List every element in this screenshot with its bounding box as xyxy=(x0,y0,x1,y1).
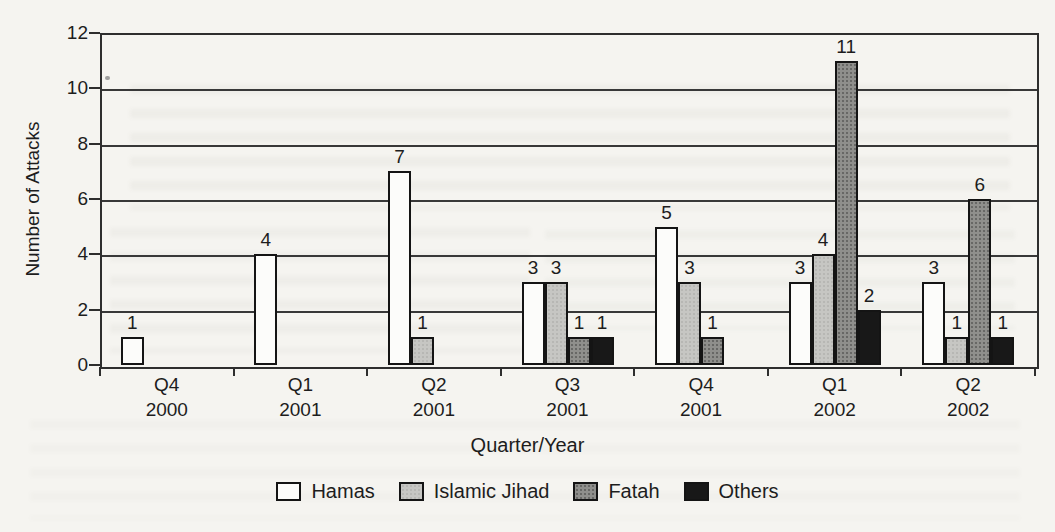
bar-hamas xyxy=(655,227,678,365)
legend: Hamas Islamic Jihad Fatah Others xyxy=(0,480,1055,503)
gridline xyxy=(102,200,1037,202)
legend-label-others: Others xyxy=(719,480,779,503)
category-quarter: Q4 xyxy=(146,372,188,397)
bar-value-label: 2 xyxy=(864,285,875,307)
bar-value-label: 3 xyxy=(928,257,939,279)
bar-islamic-jihad xyxy=(678,282,701,365)
bar-islamic-jihad xyxy=(812,254,835,365)
x-category-label: Q42001 xyxy=(680,372,722,422)
legend-item-hamas: Hamas xyxy=(276,480,374,503)
category-year: 2001 xyxy=(279,397,321,422)
gridline xyxy=(102,311,1037,313)
gridline xyxy=(102,255,1037,257)
bar-value-label: 1 xyxy=(707,312,718,334)
legend-item-fatah: Fatah xyxy=(573,480,659,503)
legend-item-islamic-jihad: Islamic Jihad xyxy=(399,480,550,503)
x-axis-title: Quarter/Year xyxy=(0,434,1055,457)
x-axis-tick xyxy=(99,367,101,376)
bar-islamic-jihad xyxy=(945,337,968,365)
bar-fatah xyxy=(835,61,858,365)
x-axis-tick xyxy=(900,367,902,376)
y-tick-label: 0 xyxy=(38,354,88,376)
bar-value-label: 5 xyxy=(661,202,672,224)
bar-islamic-jihad xyxy=(545,282,568,365)
bar-value-label: 1 xyxy=(597,312,608,334)
bar-value-label: 3 xyxy=(684,257,695,279)
y-axis-tick xyxy=(89,309,100,311)
x-axis-tick xyxy=(633,367,635,376)
y-tick-label: 2 xyxy=(38,299,88,321)
bar-hamas xyxy=(522,282,545,365)
legend-label-hamas: Hamas xyxy=(311,480,374,503)
category-quarter: Q1 xyxy=(814,372,856,397)
y-tick-label: 10 xyxy=(38,77,88,99)
bar-value-label: 7 xyxy=(394,146,405,168)
bar-others xyxy=(591,337,614,365)
bar-value-label: 3 xyxy=(551,257,562,279)
y-tick-label: 4 xyxy=(38,243,88,265)
x-category-label: Q32001 xyxy=(546,372,588,422)
bar-hamas xyxy=(121,337,144,365)
bar-value-label: 1 xyxy=(951,312,962,334)
bar-hamas xyxy=(388,171,411,365)
category-quarter: Q4 xyxy=(680,372,722,397)
x-category-label: Q22001 xyxy=(413,372,455,422)
legend-item-others: Others xyxy=(684,480,779,503)
x-axis-tick xyxy=(233,367,235,376)
bar-hamas xyxy=(789,282,812,365)
category-quarter: Q2 xyxy=(413,372,455,397)
bar-others xyxy=(858,310,881,365)
category-quarter: Q1 xyxy=(279,372,321,397)
bar-hamas xyxy=(254,254,277,365)
x-axis-tick xyxy=(1034,367,1036,376)
legend-swatch-hamas xyxy=(276,482,301,501)
y-axis-tick xyxy=(89,364,100,366)
plot-area xyxy=(100,33,1039,369)
bar-fatah xyxy=(568,337,591,365)
y-axis-tick xyxy=(89,253,100,255)
bar-value-label: 3 xyxy=(528,257,539,279)
category-year: 2001 xyxy=(680,397,722,422)
y-axis-tick xyxy=(89,143,100,145)
x-category-label: Q12001 xyxy=(279,372,321,422)
x-axis-tick xyxy=(500,367,502,376)
x-axis-tick xyxy=(366,367,368,376)
x-category-label: Q42000 xyxy=(146,372,188,422)
gridline xyxy=(102,89,1037,91)
category-year: 2000 xyxy=(146,397,188,422)
bar-fatah xyxy=(968,199,991,365)
y-tick-label: 8 xyxy=(38,133,88,155)
legend-label-islamic-jihad: Islamic Jihad xyxy=(434,480,550,503)
bar-hamas xyxy=(922,282,945,365)
category-quarter: Q2 xyxy=(947,372,989,397)
category-year: 2002 xyxy=(814,397,856,422)
y-tick-label: 6 xyxy=(38,188,88,210)
gridline xyxy=(102,145,1037,147)
y-tick-label: 12 xyxy=(38,22,88,44)
bar-value-label: 1 xyxy=(417,312,428,334)
bar-value-label: 11 xyxy=(836,36,856,58)
bar-value-label: 1 xyxy=(997,312,1008,334)
category-year: 2001 xyxy=(546,397,588,422)
attacks-bar-chart-figure: Number of Attacks Quarter/Year Hamas Isl… xyxy=(0,0,1055,532)
bar-fatah xyxy=(701,337,724,365)
bar-islamic-jihad xyxy=(411,337,434,365)
category-year: 2001 xyxy=(413,397,455,422)
x-category-label: Q12002 xyxy=(814,372,856,422)
y-axis-tick xyxy=(89,198,100,200)
bar-others xyxy=(991,337,1014,365)
legend-label-fatah: Fatah xyxy=(608,480,659,503)
legend-swatch-others xyxy=(684,482,709,501)
bar-value-label: 1 xyxy=(574,312,585,334)
category-quarter: Q3 xyxy=(546,372,588,397)
bar-value-label: 3 xyxy=(795,257,806,279)
category-year: 2002 xyxy=(947,397,989,422)
bar-value-label: 4 xyxy=(818,229,829,251)
bar-value-label: 6 xyxy=(974,174,985,196)
bar-value-label: 1 xyxy=(127,312,138,334)
x-axis-tick xyxy=(767,367,769,376)
x-category-label: Q22002 xyxy=(947,372,989,422)
y-axis-tick xyxy=(89,87,100,89)
bar-value-label: 4 xyxy=(261,229,272,251)
y-axis-tick xyxy=(89,32,100,34)
